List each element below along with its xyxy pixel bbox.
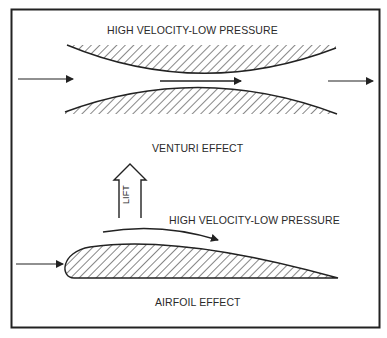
venturi-top-label: HIGH VELOCITY-LOW PRESSURE (107, 24, 278, 36)
lift-label: LIFT (121, 185, 131, 204)
venturi-caption: VENTURI EFFECT (152, 142, 243, 154)
airfoil-flow-arrow (103, 228, 218, 240)
airfoil-caption: AIRFOIL EFFECT (155, 296, 241, 308)
diagram-canvas (0, 0, 387, 338)
airfoil-top-label: HIGH VELOCITY-LOW PRESSURE (169, 214, 340, 226)
airfoil-shape (65, 244, 338, 278)
